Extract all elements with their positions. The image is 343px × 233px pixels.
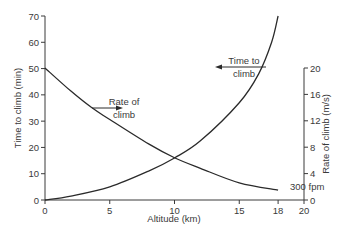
x-tick-label: 15 [234, 205, 245, 216]
curves [45, 16, 278, 200]
y2-axis-title: Rate of climb (m/s) [320, 94, 331, 174]
y-tick-label: 70 [28, 11, 39, 22]
y2-tick-label: 4 [310, 168, 315, 179]
annotation-rate-of-climb: Rate of climb [92, 96, 140, 120]
y-tick-label: 30 [28, 116, 39, 127]
x-tick-label: 20 [299, 205, 310, 216]
time-to-climb-curve [45, 16, 278, 200]
time-annot-line2: climb [233, 68, 255, 79]
y2-tick-label: 8 [310, 142, 315, 153]
arrowhead-left-icon [215, 65, 222, 70]
y2-tick-label: 12 [310, 115, 321, 126]
y-tick-label: 40 [28, 89, 39, 100]
x-axis-title: Altitude (km) [147, 213, 200, 224]
y-tick-label: 50 [28, 63, 39, 74]
fpm-annotation: 300 fpm [290, 181, 324, 192]
y-tick-label: 20 [28, 142, 39, 153]
y2-tick-label: 20 [310, 63, 321, 74]
time-annot-line1: Time to [228, 55, 259, 66]
rate-annot-line2: climb [113, 109, 135, 120]
y2-tick-label: 0 [310, 195, 315, 206]
rate-of-climb-curve [45, 68, 278, 190]
x-tick-label: 18 [273, 205, 284, 216]
x-tick-label: 5 [107, 205, 112, 216]
y-tick-label: 60 [28, 37, 39, 48]
axes: 0102030405060700510151820048121620 [28, 11, 320, 217]
y-tick-label: 0 [34, 195, 39, 206]
rate-annot-line1: Rate of [109, 96, 140, 107]
y-axis-title: Time to climb (min) [12, 68, 23, 148]
y-tick-label: 10 [28, 168, 39, 179]
x-tick-label: 0 [42, 205, 47, 216]
y2-tick-label: 16 [310, 89, 321, 100]
climb-performance-chart: 0102030405060700510151820048121620 Altit… [0, 0, 343, 233]
